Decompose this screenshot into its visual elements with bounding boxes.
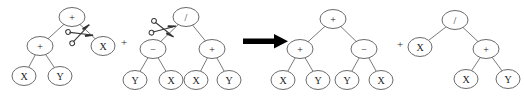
node-label: X bbox=[377, 75, 385, 86]
node-label: − bbox=[150, 44, 156, 55]
node-c1-leaf-3[interactable]: Y bbox=[335, 71, 359, 90]
scissors-handle-upper bbox=[65, 29, 71, 35]
plus-operator-children: + bbox=[397, 38, 403, 50]
node-label: X bbox=[99, 41, 107, 52]
tree-parent-1: + + X X Y bbox=[12, 8, 115, 86]
node-label: Y bbox=[131, 75, 138, 86]
node-label: Y bbox=[343, 75, 350, 86]
node-label: X bbox=[462, 74, 470, 85]
tree-nodes: / X + X Y bbox=[408, 11, 520, 89]
node-label: + bbox=[330, 14, 336, 25]
node-p1-left[interactable]: + bbox=[27, 37, 53, 56]
node-label: Y bbox=[56, 71, 63, 82]
node-label: + bbox=[37, 41, 43, 52]
node-label: Y bbox=[504, 74, 511, 85]
node-label: X bbox=[167, 75, 175, 86]
arrow-shaft bbox=[243, 39, 275, 45]
tree-child-1: + + − X Y bbox=[271, 10, 393, 90]
node-label: X bbox=[192, 75, 200, 86]
node-c1-leaf-2[interactable]: Y bbox=[306, 71, 330, 90]
node-c1-leaf-4[interactable]: X bbox=[369, 71, 393, 90]
node-p1-leaf-1[interactable]: X bbox=[12, 67, 36, 86]
node-p2-leaf-1[interactable]: Y bbox=[123, 71, 147, 90]
tree-nodes: + + X X Y bbox=[12, 8, 115, 86]
node-p2-left[interactable]: − bbox=[140, 40, 166, 59]
tree-nodes: / − + Y X bbox=[123, 8, 241, 90]
node-c2-left[interactable]: X bbox=[408, 38, 432, 57]
node-c1-root[interactable]: + bbox=[320, 10, 346, 29]
tree-nodes: + + − X Y bbox=[271, 10, 393, 90]
node-label: / bbox=[185, 12, 188, 23]
node-label: + bbox=[69, 12, 75, 23]
node-p2-right[interactable]: + bbox=[199, 40, 225, 59]
node-label: + bbox=[297, 44, 303, 55]
arrow-head bbox=[274, 34, 288, 49]
node-label: X bbox=[279, 75, 287, 86]
node-label: Y bbox=[314, 75, 321, 86]
node-c1-leaf-1[interactable]: X bbox=[271, 71, 295, 90]
node-p1-leaf-2[interactable]: Y bbox=[48, 67, 72, 86]
node-label: / bbox=[454, 15, 457, 26]
scissors-handle-lower bbox=[149, 30, 155, 36]
transform-arrow bbox=[243, 34, 288, 49]
node-c2-leaf-1[interactable]: X bbox=[454, 70, 478, 89]
node-label: X bbox=[416, 42, 424, 53]
node-label: + bbox=[209, 44, 215, 55]
crossover-diagram: + + X X Y bbox=[0, 0, 524, 100]
scissors-handle-upper bbox=[151, 18, 157, 24]
diagram-canvas: + + X X Y bbox=[0, 0, 524, 100]
plus-operator-parents: + bbox=[121, 36, 127, 48]
node-c2-root[interactable]: / bbox=[442, 11, 468, 30]
node-c2-leaf-2[interactable]: Y bbox=[496, 70, 520, 89]
node-p2-root[interactable]: / bbox=[173, 8, 199, 27]
node-p2-leaf-3[interactable]: X bbox=[184, 71, 208, 90]
scissors-icon-2[interactable] bbox=[149, 18, 177, 40]
tree-child-2: / X + X Y bbox=[408, 11, 520, 89]
tree-parent-2: / − + Y X bbox=[123, 8, 241, 90]
node-label: + bbox=[483, 44, 489, 55]
node-p2-leaf-4[interactable]: Y bbox=[217, 71, 241, 90]
node-label: Y bbox=[225, 75, 232, 86]
node-c2-right[interactable]: + bbox=[473, 40, 499, 59]
node-c1-left[interactable]: + bbox=[287, 40, 313, 59]
node-c1-right[interactable]: − bbox=[351, 40, 377, 59]
node-p1-right[interactable]: X bbox=[91, 37, 115, 56]
node-p2-leaf-2[interactable]: X bbox=[159, 71, 183, 90]
node-label: X bbox=[20, 71, 28, 82]
node-label: − bbox=[361, 44, 367, 55]
node-p1-root[interactable]: + bbox=[59, 8, 85, 27]
